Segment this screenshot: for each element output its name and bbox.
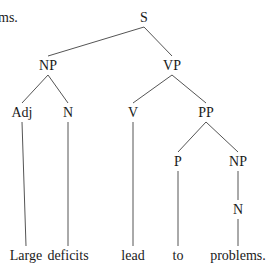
tree-edge-adj-w1 — [22, 122, 26, 246]
tree-edge-pp-p — [178, 122, 206, 152]
tree-node-p: P — [174, 154, 182, 169]
tree-node-np1: NP — [39, 58, 57, 73]
tree-leaf-word: deficits — [47, 248, 88, 263]
tree-node-n1: N — [63, 105, 73, 120]
tree-leaf-word: problems. — [210, 248, 266, 263]
tree-node-pp: PP — [198, 105, 214, 120]
tree-edge-vp-v — [133, 75, 172, 103]
tree-edge-s-np1 — [48, 27, 144, 56]
syntax-tree-diagram: ms. SNPVPAdjNVPPPNPNLargedeficitsleadtop… — [0, 0, 268, 273]
tree-node-n2: N — [233, 202, 243, 217]
tree-edge-s-vp — [144, 27, 172, 56]
tree-edge-np1-adj — [22, 75, 48, 103]
tree-node-v: V — [128, 105, 138, 120]
tree-node-adj: Adj — [12, 105, 33, 120]
tree-node-np2: NP — [229, 154, 247, 169]
tree-leaf-word: to — [173, 248, 184, 263]
tree-node-vp: VP — [163, 58, 181, 73]
tree-edge-np1-n1 — [48, 75, 68, 103]
tree-edge-vp-pp — [172, 75, 206, 103]
caption-fragment: ms. — [0, 10, 18, 25]
tree-leaf-word: Large — [10, 248, 42, 263]
tree-leaf-word: lead — [121, 248, 144, 263]
tree-edge-pp-np2 — [206, 122, 238, 152]
tree-node-s: S — [140, 10, 148, 25]
